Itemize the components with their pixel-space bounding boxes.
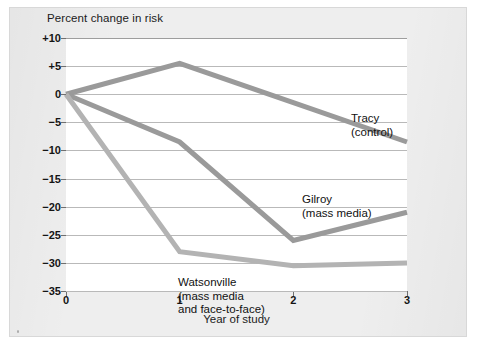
- series-label-watsonville-line1: Watsonville: [178, 276, 265, 290]
- y-axis-tick-label: −30: [42, 257, 61, 269]
- y-axis-tick-mark: [61, 207, 66, 208]
- x-axis-tick-mark: [407, 292, 408, 296]
- series-label-tracy-line1: Tracy: [351, 112, 393, 126]
- series-label-gilroy-line2: (mass media): [302, 207, 372, 221]
- y-axis-tick-label: −35: [42, 285, 61, 297]
- y-axis-tick-label: +10: [42, 32, 61, 44]
- y-axis-tick-label: −15: [42, 173, 61, 185]
- y-axis-tick-mark: [61, 122, 66, 123]
- y-axis-tick-labels: +10+50−5−10−15−20−25−30−35: [22, 38, 61, 291]
- y-axis-tick-label: −25: [42, 229, 61, 241]
- y-axis-tick-mark: [61, 263, 66, 264]
- y-axis-title: Percent change in risk: [47, 12, 163, 24]
- y-axis-tick-label: +5: [48, 60, 61, 72]
- chart-figure: Percent change in risk +10+50−5−10−15−20…: [0, 0, 477, 352]
- y-axis-tick-mark: [61, 38, 66, 39]
- series-label-tracy: Tracy (control): [351, 112, 393, 139]
- x-axis-tick-mark: [293, 292, 294, 296]
- y-axis-tick-mark: [61, 94, 66, 95]
- x-axis-tick-mark: [180, 292, 181, 296]
- y-axis-tick-label: −5: [48, 116, 61, 128]
- y-axis-tick-mark: [61, 179, 66, 180]
- y-axis-tick-mark: [61, 150, 66, 151]
- series-lines: [66, 38, 407, 291]
- x-axis-title: Year of study: [66, 313, 407, 325]
- y-axis-tick-label: −10: [42, 144, 61, 156]
- scan-artifact-speck: [17, 330, 19, 333]
- series-label-gilroy-line1: Gilroy: [302, 193, 372, 207]
- series-label-gilroy: Gilroy (mass media): [302, 193, 372, 220]
- x-axis-tick-mark: [66, 292, 67, 296]
- series-label-tracy-line2: (control): [351, 126, 393, 140]
- y-axis-tick-label: −20: [42, 201, 61, 213]
- y-axis-tick-mark: [61, 235, 66, 236]
- x-axis-tick-labels: 0123: [66, 294, 407, 312]
- y-axis-tick-mark: [61, 66, 66, 67]
- plot-area: Tracy (control) Gilroy (mass media) Wats…: [66, 38, 407, 291]
